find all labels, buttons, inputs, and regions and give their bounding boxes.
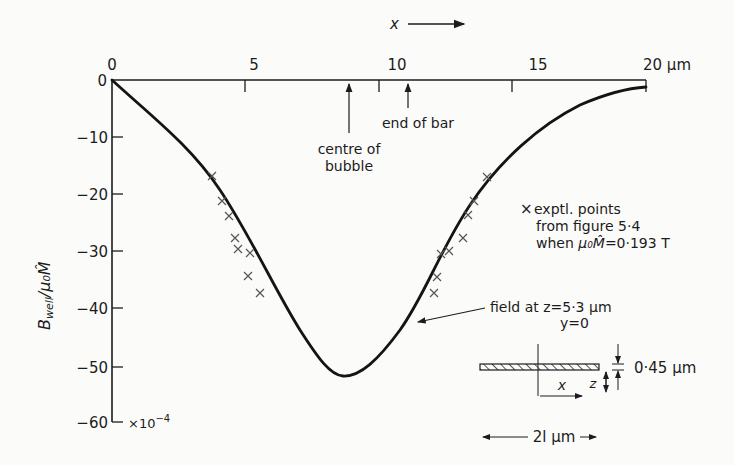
x-tick-0: 0 bbox=[107, 56, 117, 74]
x-tick-5: 5 bbox=[249, 56, 259, 74]
x-tick-20: 20 µm bbox=[643, 56, 691, 74]
chart-figure: x 0 5 10 15 20 µm 0 −10 −20 −30 −40 −50 … bbox=[0, 0, 734, 465]
svg-text:y=0: y=0 bbox=[560, 315, 589, 331]
svg-text:bubble: bubble bbox=[325, 158, 373, 174]
svg-text:centre of: centre of bbox=[318, 141, 382, 157]
legend: × exptl. points from figure 5·4 when µ₀M… bbox=[520, 200, 670, 251]
x-marker-icon: × bbox=[520, 200, 533, 218]
experimental-points bbox=[208, 172, 491, 297]
y-tick-minus50: −50 bbox=[76, 359, 108, 377]
y-multiplier: ×10−4 bbox=[128, 413, 170, 431]
thickness-label: 0·45 µm bbox=[634, 359, 696, 377]
length-label: 2l µm bbox=[533, 428, 576, 446]
svg-text:x: x bbox=[557, 377, 567, 393]
y-axis: 0 −10 −20 −30 −40 −50 −60 ×10−4 bbox=[76, 72, 170, 432]
y-tick-minus40: −40 bbox=[76, 300, 108, 318]
bar-inset-diagram: x z 0·45 µm 2l µm bbox=[480, 344, 696, 446]
x-tick-10: 10 bbox=[387, 56, 406, 74]
y-tick-minus10: −10 bbox=[76, 129, 108, 147]
pointer-arrow-icon bbox=[418, 308, 485, 322]
x-direction-label: x bbox=[389, 15, 399, 33]
svg-text:exptl. points: exptl. points bbox=[534, 201, 621, 217]
svg-text:end of bar: end of bar bbox=[382, 115, 454, 131]
svg-text:z: z bbox=[589, 376, 598, 391]
svg-text:field at z=5·3 µm: field at z=5·3 µm bbox=[490, 299, 612, 315]
end-of-bar-annotation: end of bar bbox=[382, 84, 454, 131]
x-direction-indicator: x bbox=[389, 15, 464, 33]
x-tick-15: 15 bbox=[528, 56, 547, 74]
y-tick-minus60: −60 bbox=[76, 414, 108, 432]
x-axis: 0 5 10 15 20 µm bbox=[107, 56, 691, 92]
svg-text:from figure 5·4: from figure 5·4 bbox=[536, 218, 640, 234]
y-tick-minus20: −20 bbox=[76, 186, 108, 204]
hatched-bar bbox=[480, 364, 599, 370]
y-axis-title: Bwell/µ₀M̂ bbox=[35, 261, 56, 330]
field-annotation: field at z=5·3 µm y=0 bbox=[418, 299, 612, 331]
centre-of-bubble-annotation: centre of bubble bbox=[318, 84, 382, 174]
y-tick-minus30: −30 bbox=[76, 243, 108, 261]
svg-text:when µ₀M̂=0·193 T: when µ₀M̂=0·193 T bbox=[536, 235, 670, 251]
y-tick-0: 0 bbox=[97, 72, 107, 90]
